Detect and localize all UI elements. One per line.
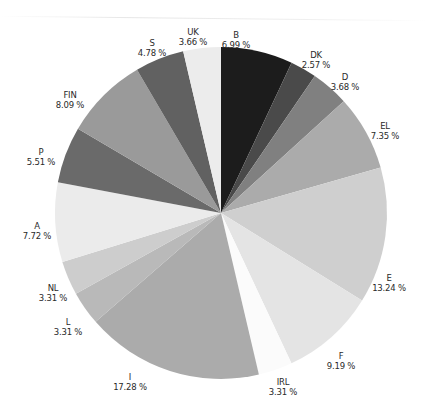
label-el: EL7.35 %	[371, 121, 400, 141]
label-f: F9.19 %	[327, 351, 356, 371]
label-irl: IRL3.31 %	[269, 377, 298, 397]
label-d: D3.68 %	[331, 72, 360, 92]
label-e: E13.24 %	[372, 273, 406, 293]
label-fin: FIN8.09 %	[56, 90, 85, 110]
label-l: L3.31 %	[54, 317, 83, 337]
label-uk: UK3.66 %	[179, 27, 208, 47]
label-i: I17.28 %	[113, 372, 147, 392]
label-dk: DK2.57 %	[302, 50, 331, 70]
label-p: P5.51 %	[27, 147, 56, 167]
pie-chart	[0, 0, 426, 417]
label-b: B6.99 %	[222, 30, 251, 50]
label-nl: NL3.31 %	[39, 283, 68, 303]
label-s: S4.78 %	[138, 38, 167, 58]
label-a: A7.72 %	[23, 221, 52, 241]
